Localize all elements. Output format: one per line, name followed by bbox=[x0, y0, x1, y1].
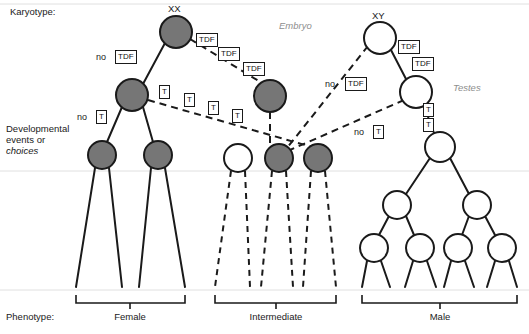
node-male-lr bbox=[406, 234, 434, 262]
gene-box-no-t-xx: T bbox=[96, 110, 107, 124]
edges-intermediate-legs bbox=[215, 171, 336, 287]
gene-box-t-xy-2: T bbox=[423, 118, 434, 132]
node-xx-no-tdf bbox=[116, 79, 148, 111]
stage-label-embryo: Embryo bbox=[279, 20, 312, 31]
node-xy-t bbox=[425, 132, 455, 162]
gene-box-tdf-xy-2: TDF bbox=[412, 57, 434, 71]
node-intermediate-filled-2 bbox=[304, 144, 332, 172]
row-label-developmental-line2: events or bbox=[6, 134, 45, 145]
node-xx-female-right bbox=[144, 141, 172, 169]
node-male-ll bbox=[360, 234, 388, 262]
bracket-male bbox=[362, 295, 517, 309]
gene-box-no-t-xy: T bbox=[373, 125, 384, 139]
node-xx-tdf-mid bbox=[254, 80, 286, 112]
gene-box-no-tdf-xy: TDF bbox=[345, 77, 367, 91]
row-label-developmental-line3: choices bbox=[6, 145, 38, 156]
gene-box-t-xx-2: T bbox=[184, 93, 195, 107]
karyotype-label-xy: XY bbox=[372, 10, 385, 21]
sex-determination-diagram: Karyotype: Developmental events or choic… bbox=[0, 0, 529, 334]
gene-prefix-no-tdf-xy: no bbox=[325, 79, 335, 89]
phenotype-brackets bbox=[76, 295, 517, 309]
node-male-l bbox=[383, 191, 411, 219]
row-label-developmental-line1: Developmental bbox=[6, 123, 69, 134]
node-intermediate-filled-1 bbox=[265, 144, 293, 172]
bracket-intermediate bbox=[215, 295, 336, 309]
node-xx-female-left bbox=[88, 141, 116, 169]
gene-box-t-xx-1: T bbox=[159, 85, 170, 99]
node-male-rl bbox=[444, 234, 472, 262]
gene-box-t-xx-3: T bbox=[208, 101, 219, 115]
node-xy-root bbox=[364, 22, 396, 54]
gene-box-tdf-xy-1: TDF bbox=[398, 40, 420, 54]
gene-box-no-tdf-xx: TDF bbox=[115, 50, 137, 64]
gene-prefix-no-t-xy: no bbox=[354, 127, 364, 137]
node-intermediate-open bbox=[224, 144, 252, 172]
bracket-female bbox=[76, 295, 185, 309]
gene-box-tdf-xx-1: TDF bbox=[196, 33, 218, 47]
row-label-phenotype: Phenotype: bbox=[6, 311, 54, 322]
gene-box-tdf-xx-3: TDF bbox=[243, 62, 265, 76]
stage-label-testes: Testes bbox=[453, 82, 481, 93]
gene-box-t-xy-1: T bbox=[423, 103, 434, 117]
gene-box-tdf-xx-2: TDF bbox=[218, 47, 240, 61]
gene-box-t-xx-4: T bbox=[232, 109, 243, 123]
phenotype-label-female: Female bbox=[114, 311, 146, 322]
row-label-karyotype: Karyotype: bbox=[10, 6, 55, 17]
node-male-r bbox=[463, 191, 491, 219]
phenotype-label-intermediate: Intermediate bbox=[250, 311, 303, 322]
karyotype-label-xx: XX bbox=[168, 3, 181, 14]
node-xx-root bbox=[160, 16, 192, 48]
gene-prefix-no-t-xx: no bbox=[77, 112, 87, 122]
diagram-canvas bbox=[0, 0, 529, 334]
phenotype-label-male: Male bbox=[430, 311, 451, 322]
gene-prefix-no-tdf-xx: no bbox=[96, 52, 106, 62]
node-male-rr bbox=[488, 234, 516, 262]
